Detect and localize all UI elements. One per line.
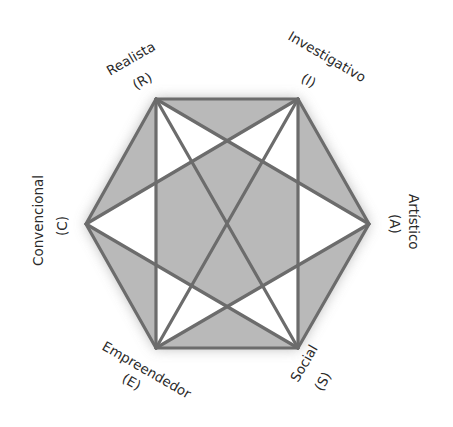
label-social-code: (S): [311, 369, 334, 394]
label-artistico: Artístico (A): [387, 194, 422, 250]
label-realista-code: (R): [130, 69, 155, 93]
holland-hexagon-diagram: Realista (R) Investigativo (I) Artístico…: [0, 0, 453, 427]
label-convencional-name: Convencional: [30, 175, 46, 266]
label-investigativo-name: Investigativo: [286, 28, 369, 85]
label-realista: Realista (R): [104, 38, 158, 93]
label-investigativo: Investigativo (I): [286, 28, 369, 91]
label-artistico-code: (A): [387, 214, 403, 234]
label-investigativo-code: (I): [299, 70, 320, 91]
label-realista-name: Realista: [104, 38, 158, 79]
label-convencional-code: (C): [54, 216, 70, 236]
label-artistico-name: Artístico: [406, 194, 422, 250]
label-convencional: Convencional (C): [30, 175, 70, 266]
